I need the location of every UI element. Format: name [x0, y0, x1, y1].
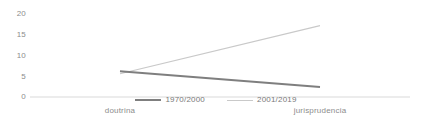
chart-legend: 1970/2000 2001/2019: [0, 95, 432, 105]
x-axis-category-jurisprudencia: jurisprudencia: [275, 106, 365, 116]
legend-swatch-icon-2001-2019: [227, 100, 253, 101]
series-line-1970-2000: [120, 71, 320, 87]
legend-label-2001-2019: 2001/2019: [257, 95, 297, 105]
line-chart: 20 15 10 5 0 1970/2000 2001/2019 doutrin…: [0, 0, 432, 122]
x-axis-category-doutrina: doutrina: [85, 106, 155, 116]
series-line-2001-2019: [120, 26, 320, 74]
legend-swatch-icon-1970-2000: [135, 99, 161, 101]
legend-item-2001-2019[interactable]: 2001/2019: [227, 95, 297, 105]
legend-item-1970-2000[interactable]: 1970/2000: [135, 95, 205, 105]
legend-label-1970-2000: 1970/2000: [165, 95, 205, 105]
